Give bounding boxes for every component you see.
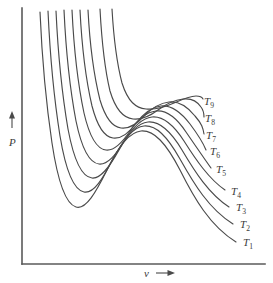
x-axis-label-group: v <box>144 267 175 279</box>
isotherm-plot-canvas: P v T1T2T3T4T5T6T7T8T9 <box>0 0 273 283</box>
isotherm-curve-t9 <box>112 9 203 109</box>
x-axis-right-arrow-head <box>168 270 176 276</box>
isotherm-curve-t8 <box>100 9 204 119</box>
isotherm-curve-t5 <box>72 10 211 168</box>
isotherm-curve-t1 <box>40 12 236 242</box>
curve-label-t6: T6 <box>210 145 220 160</box>
curve-label-t4: T4 <box>231 185 241 200</box>
y-axis-label-group: P <box>8 111 16 148</box>
y-axis-up-arrow-head <box>9 111 15 119</box>
curve-label-t1: T1 <box>243 236 253 251</box>
curve-label-t3: T3 <box>236 201 246 216</box>
isotherm-curve-t6 <box>80 10 206 150</box>
isotherm-curve-t4 <box>64 10 225 190</box>
curve-label-t5: T5 <box>216 163 226 178</box>
isotherm-labels-group: T1T2T3T4T5T6T7T8T9 <box>204 95 253 251</box>
curve-label-t7: T7 <box>206 129 216 144</box>
y-axis-label: P <box>8 136 16 148</box>
isotherm-curve-t7 <box>88 10 204 134</box>
curve-label-t2: T2 <box>240 218 250 233</box>
x-axis-label: v <box>144 267 149 279</box>
van-der-waals-isotherm-figure: P v T1T2T3T4T5T6T7T8T9 <box>0 0 273 283</box>
curve-label-t9: T9 <box>204 95 214 110</box>
isotherm-curves-group <box>40 9 236 242</box>
curve-label-t8: T8 <box>205 112 215 127</box>
